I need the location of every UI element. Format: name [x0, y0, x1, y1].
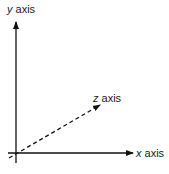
z-axis-word: axis	[102, 92, 122, 104]
y-axis-variable: y	[7, 3, 13, 15]
x-axis-word: axis	[145, 147, 165, 159]
x-axis-label: x axis	[136, 147, 164, 159]
x-axis-variable: x	[136, 147, 142, 159]
coordinate-axes-diagram: y axis z axis x axis	[0, 0, 169, 174]
z-axis-line	[9, 105, 100, 158]
y-axis-label: y axis	[7, 3, 35, 15]
z-axis-label: z axis	[93, 92, 121, 104]
z-axis-variable: z	[93, 92, 99, 104]
y-axis-word: axis	[16, 3, 36, 15]
